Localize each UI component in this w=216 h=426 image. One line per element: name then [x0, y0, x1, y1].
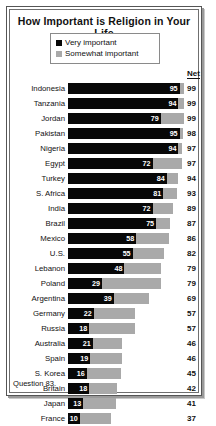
- bar-value-label: 72: [143, 204, 151, 213]
- stacked-bar: 10: [68, 413, 111, 424]
- legend-item-somewhat-important: Somewhat important: [56, 49, 155, 59]
- bar-segment-very-important: 84: [68, 173, 167, 184]
- stacked-bar: 84: [68, 173, 178, 184]
- category-label: Russia: [7, 324, 65, 333]
- category-label: Spain: [7, 354, 65, 363]
- chart-row: Poland2979: [7, 277, 201, 292]
- bar-value-label: 39: [104, 294, 112, 303]
- bar-segment-very-important: 29: [68, 278, 102, 289]
- net-value: 99: [187, 114, 196, 123]
- chart-row: U.S.5582: [7, 247, 201, 262]
- category-label: Egypt: [7, 159, 65, 168]
- net-column-header: Net: [187, 69, 200, 79]
- net-value: 98: [187, 129, 196, 138]
- chart-row: Brazil7587: [7, 217, 201, 232]
- chart-row: India7289: [7, 202, 201, 217]
- category-label: Pakistan: [7, 129, 65, 138]
- bar-segment-very-important: 94: [68, 143, 178, 154]
- category-label: Australia: [7, 339, 65, 348]
- chart-row: S. Africa8193: [7, 187, 201, 202]
- net-value: 89: [187, 204, 196, 213]
- bar-value-label: 94: [168, 144, 176, 153]
- net-value: 57: [187, 309, 196, 318]
- stacked-bar: 21: [68, 338, 122, 349]
- category-label: Poland: [7, 279, 65, 288]
- category-label: Japan: [7, 399, 65, 408]
- bar-segment-very-important: 95: [68, 128, 180, 139]
- legend-label-somewhat-important: Somewhat important: [65, 49, 138, 59]
- net-value: 41: [187, 399, 196, 408]
- bar-value-label: 79: [151, 114, 159, 123]
- net-value: 46: [187, 339, 196, 348]
- net-value: 37: [187, 414, 196, 423]
- stacked-bar: 13: [68, 398, 116, 409]
- stacked-bar: 48: [68, 263, 161, 274]
- net-value: 79: [187, 279, 196, 288]
- stacked-bar: 72: [68, 203, 173, 214]
- bar-segment-very-important: 58: [68, 233, 136, 244]
- net-value: 82: [187, 249, 196, 258]
- legend-item-very-important: Very important: [56, 38, 155, 48]
- bar-segment-very-important: 72: [68, 158, 153, 169]
- stacked-bar: 95: [68, 83, 184, 94]
- chart-row: Jordan7999: [7, 112, 201, 127]
- stacked-bar: 18: [68, 323, 135, 334]
- bar-value-label: 95: [170, 84, 178, 93]
- stacked-bar: 95: [68, 128, 183, 139]
- category-label: Germany: [7, 309, 65, 318]
- bar-segment-very-important: 81: [68, 188, 163, 199]
- bar-segment-very-important: 16: [68, 368, 87, 379]
- category-label: Brazil: [7, 219, 65, 228]
- bar-segment-very-important: 10: [68, 413, 80, 424]
- chart-row: France1037: [7, 412, 201, 426]
- category-label: U.S.: [7, 249, 65, 258]
- category-label: Turkey: [7, 174, 65, 183]
- net-value: 57: [187, 324, 196, 333]
- stacked-bar: 16: [68, 368, 121, 379]
- bar-value-label: 58: [126, 234, 134, 243]
- bar-value-label: 75: [146, 219, 154, 228]
- bar-value-label: 22: [84, 309, 92, 318]
- bar-segment-very-important: 13: [68, 398, 83, 409]
- net-value: 99: [187, 84, 196, 93]
- chart-row: Indonesia9599: [7, 82, 201, 97]
- net-value: 94: [187, 174, 196, 183]
- net-value: 87: [187, 219, 196, 228]
- bar-segment-very-important: 75: [68, 218, 156, 229]
- bar-value-label: 81: [153, 189, 161, 198]
- category-label: Argentina: [7, 294, 65, 303]
- stacked-bar: 94: [68, 143, 182, 154]
- category-label: S. Korea: [7, 369, 65, 378]
- stacked-bar: 81: [68, 188, 177, 199]
- chart-legend: Very important Somewhat important: [50, 33, 160, 64]
- net-value: 69: [187, 294, 196, 303]
- category-label: S. Africa: [7, 189, 65, 198]
- net-value: 86: [187, 234, 196, 243]
- category-label: India: [7, 204, 65, 213]
- bar-value-label: 72: [143, 159, 151, 168]
- chart-row: Turkey8494: [7, 172, 201, 187]
- bar-segment-very-important: 18: [68, 323, 89, 334]
- category-label: Nigeria: [7, 144, 65, 153]
- bar-segment-very-important: 55: [68, 248, 133, 259]
- bar-segment-very-important: 22: [68, 308, 94, 319]
- chart-row: Germany2257: [7, 307, 201, 322]
- stacked-bar: 94: [68, 98, 184, 109]
- chart-row: Tanzania9499: [7, 97, 201, 112]
- bar-value-label: 13: [73, 399, 81, 408]
- bar-value-label: 21: [83, 339, 91, 348]
- chart-row: Lebanon4879: [7, 262, 201, 277]
- bar-value-label: 19: [80, 354, 88, 363]
- category-label: Indonesia: [7, 84, 65, 93]
- bar-segment-very-important: 72: [68, 203, 153, 214]
- stacked-bar: 19: [68, 353, 122, 364]
- bar-segment-very-important: 79: [68, 113, 161, 124]
- net-value: 97: [187, 159, 196, 168]
- bar-value-label: 94: [168, 99, 176, 108]
- bar-segment-very-important: 39: [68, 293, 114, 304]
- chart-row: Australia2146: [7, 337, 201, 352]
- net-value: 93: [187, 189, 196, 198]
- chart-rows: Indonesia9599Tanzania9499Jordan7999Pakis…: [7, 82, 201, 426]
- category-label: France: [7, 414, 65, 423]
- bar-value-label: 29: [92, 279, 100, 288]
